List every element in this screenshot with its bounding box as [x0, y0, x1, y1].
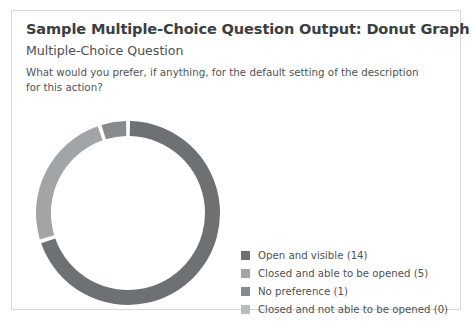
- result-card: Sample Multiple-Choice Question Output: …: [11, 10, 461, 310]
- legend-item-label: No preference (1): [258, 285, 348, 298]
- legend-item[interactable]: Closed and able to be opened (5): [241, 265, 456, 281]
- donut-chart-svg: [32, 113, 230, 313]
- legend-swatch-icon: [241, 305, 250, 314]
- legend-swatch-icon: [241, 269, 250, 278]
- section-subtitle: Multiple-Choice Question: [26, 43, 450, 59]
- donut-chart: [32, 113, 230, 313]
- legend-item-label: Open and visible (14): [258, 249, 368, 262]
- page-title: Sample Multiple-Choice Question Output: …: [26, 20, 450, 38]
- legend-swatch-icon: [241, 287, 250, 296]
- question-text: What would you prefer, if anything, for …: [26, 65, 426, 94]
- card-header: Sample Multiple-Choice Question Output: …: [26, 20, 450, 94]
- donut-segment[interactable]: [36, 126, 103, 239]
- screenshot-root: Sample Multiple-Choice Question Output: …: [0, 0, 472, 322]
- donut-segment[interactable]: [101, 121, 126, 139]
- legend-item-label: Closed and not able to be opened (0): [258, 303, 448, 316]
- chart-legend: Open and visible (14)Closed and able to …: [241, 247, 456, 319]
- legend-item[interactable]: No preference (1): [241, 283, 456, 299]
- legend-swatch-icon: [241, 251, 250, 260]
- legend-item[interactable]: Closed and not able to be opened (0): [241, 301, 456, 317]
- legend-item-label: Closed and able to be opened (5): [258, 267, 428, 280]
- legend-item[interactable]: Open and visible (14): [241, 247, 456, 263]
